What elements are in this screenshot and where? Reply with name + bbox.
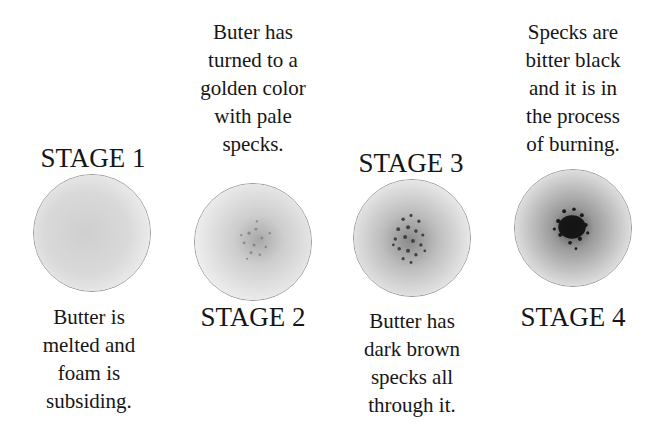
stage-2-butter-image <box>195 184 311 300</box>
stage-4-description: Specks are bitter black and it is in the… <box>498 18 648 158</box>
stage-4-butter-dish <box>514 169 632 287</box>
stage-3-butter-image <box>354 180 470 296</box>
stage-4-title: STAGE 4 <box>514 302 632 333</box>
stage-1-title: STAGE 1 <box>34 143 152 174</box>
stage-3-title: STAGE 3 <box>352 148 470 179</box>
stage-4-butter-image <box>515 170 631 286</box>
stage-3-description: Butter has dark brown specks all through… <box>337 307 487 419</box>
stage-1-butter-image <box>34 175 150 291</box>
stage-2-title: STAGE 2 <box>194 302 312 333</box>
stage-3-butter-dish <box>353 179 471 297</box>
stage-2-butter-dish <box>194 183 312 301</box>
stage-2-description: Buter has turned to a golden color with … <box>178 18 328 158</box>
stage-1-description: Butter is melted and foam is subsiding. <box>14 303 164 415</box>
stage-1-butter-dish <box>33 174 151 292</box>
